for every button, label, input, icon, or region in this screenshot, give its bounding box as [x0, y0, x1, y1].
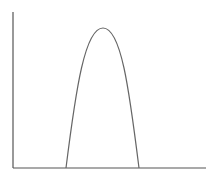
peak-diagram [0, 0, 221, 179]
diagram-canvas [0, 0, 221, 179]
peak-curve [66, 28, 139, 168]
